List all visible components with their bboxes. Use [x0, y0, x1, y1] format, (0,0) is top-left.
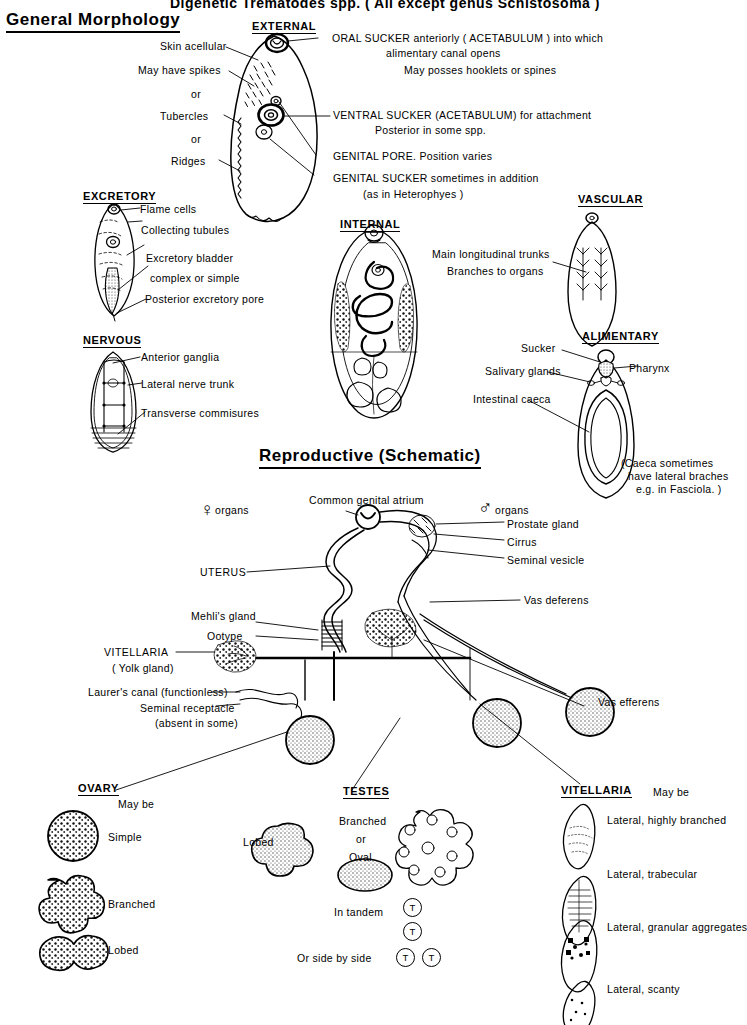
- label-tubercles: Tubercles: [160, 110, 208, 123]
- note-caeca-3: e.g. in Fasciola. ): [636, 483, 722, 496]
- label-may-have-spikes: May have spikes: [138, 64, 221, 77]
- section-header-excretory: EXCRETORY: [83, 190, 156, 204]
- internal-fluke: [331, 225, 417, 418]
- label-vitellaria-scanty: Lateral, scanty: [607, 983, 680, 996]
- label-seminal-receptacle: Seminal receptacle: [140, 702, 235, 715]
- label-branches-to-organs: Branches to organs: [447, 265, 543, 278]
- reproductive-schematic: [214, 505, 614, 764]
- testis-marker-side-1: T: [396, 948, 415, 967]
- label-hooklets-spines: May posses hooklets or spines: [404, 64, 556, 77]
- label-main-longitudinal-trunks: Main longitudinal trunks: [432, 248, 550, 261]
- label-collecting-tubules: Collecting tubules: [141, 224, 229, 237]
- label-intestinal-caeca: Intestinal caeca: [473, 393, 551, 406]
- label-vas-efferens: Vas efferens: [598, 696, 660, 709]
- label-salivary-glands: Salivary glands: [485, 365, 561, 378]
- label-vitellaria-highly-branched: Lateral, highly branched: [607, 814, 726, 827]
- label-vitellaria-trabecular: Lateral, trabecular: [607, 868, 697, 881]
- testis-marker-side-2: T: [422, 948, 441, 967]
- section-header-internal: INTERNAL: [340, 218, 400, 232]
- label-ovary-branched: Branched: [108, 898, 155, 911]
- section-header-alimentary: ALIMENTARY: [582, 330, 659, 344]
- section-header-ovary: OVARY: [78, 782, 119, 796]
- label-anterior-ganglia: Anterior ganglia: [141, 351, 219, 364]
- label-testes-lobed: Lobed: [243, 836, 274, 849]
- label-genital-sucker: GENITAL SUCKER sometimes in addition: [333, 172, 539, 185]
- label-mehlis-gland: Mehli's gland: [191, 610, 256, 623]
- label-absent-in-some: (absent in some): [155, 717, 238, 730]
- label-posterior-some-spp: Posterior in some spp.: [375, 124, 486, 137]
- page-title-general-morphology: General Morphology: [6, 10, 180, 33]
- label-vitellaria-may-be: May be: [653, 786, 689, 799]
- label-yolk-gland: ( Yolk gland): [112, 662, 174, 675]
- label-uterus: UTERUS: [200, 566, 246, 579]
- note-caeca-2: have lateral braches: [628, 470, 729, 483]
- label-pharynx: Pharynx: [629, 362, 670, 375]
- label-or-side-by-side: Or side by side: [297, 952, 372, 965]
- label-laurers-canal: Laurer's canal (functionless): [88, 686, 228, 699]
- alimentary-leader-lines: [528, 350, 638, 432]
- label-ridges: Ridges: [171, 155, 205, 168]
- testis-marker-tandem-1: T: [403, 898, 422, 917]
- label-common-genital-atrium: Common genital atrium: [309, 494, 424, 507]
- vitellaria-forms: [562, 804, 597, 1025]
- label-ovary-may-be: May be: [118, 798, 154, 811]
- label-complex-or-simple: complex or simple: [150, 272, 240, 285]
- label-ventral-sucker: VENTRAL SUCKER (ACETABULUM) for attachme…: [333, 109, 591, 122]
- section-header-nervous: NERVOUS: [83, 334, 141, 348]
- label-posterior-excretory-pore: Posterior excretory pore: [145, 293, 264, 306]
- label-in-tandem: In tandem: [334, 906, 383, 919]
- nervous-fluke: [91, 352, 136, 452]
- label-testes-oval: Oval: [349, 851, 372, 864]
- ovary-forms: [39, 811, 108, 970]
- label-vas-deferens: Vas deferens: [524, 594, 589, 607]
- reproductive-leader-lines: [116, 511, 584, 790]
- label-transverse-commisures: Transverse commisures: [141, 407, 259, 420]
- alimentary-fluke: [578, 350, 634, 498]
- label-ootype: Ootype: [207, 630, 243, 643]
- label-flame-cells: Flame cells: [140, 203, 196, 216]
- vitellaria-right-cluster: [365, 609, 416, 647]
- label-prostate-gland: Prostate gland: [507, 518, 579, 531]
- top-banner: Digenetic Trematodes spp. ( All except g…: [170, 0, 600, 11]
- vitellaria-left-cluster: [214, 641, 256, 672]
- label-sucker: Sucker: [521, 342, 555, 355]
- label-testes-or: or: [356, 833, 366, 846]
- label-lateral-nerve-trunk: Lateral nerve trunk: [141, 378, 234, 391]
- section-header-vitellaria: VITELLARIA: [561, 784, 632, 798]
- nervous-leader-lines: [113, 357, 145, 434]
- label-vitellaria-granular-aggregates: Lateral, granular aggregates: [607, 921, 747, 934]
- female-symbol: ♀: [200, 500, 215, 519]
- label-ovary-simple: Simple: [108, 831, 142, 844]
- label-skin-acellular: Skin acellular: [160, 40, 227, 53]
- male-symbol: ♂: [478, 498, 493, 517]
- label-testes-branched: Branched: [339, 815, 386, 828]
- vascular-fluke: [553, 213, 616, 346]
- section-header-testes: TESTES: [343, 785, 389, 799]
- male-organs-label: organs: [495, 504, 529, 517]
- label-or-2: or: [191, 133, 201, 146]
- section-header-vascular: VASCULAR: [578, 193, 643, 207]
- label-ovary-lobed: Lobed: [108, 944, 139, 957]
- female-organs-label: organs: [215, 504, 249, 517]
- testis-marker-tandem-2: T: [403, 922, 422, 941]
- label-oral-sucker: ORAL SUCKER anteriorly ( ACETABULUM ) in…: [332, 32, 603, 45]
- label-excretory-bladder: Excretory bladder: [146, 252, 233, 265]
- note-caeca-1: (Caeca sometimes: [621, 457, 713, 470]
- section-header-external: EXTERNAL: [252, 20, 316, 34]
- label-vitellaria-repro: VITELLARIA: [104, 646, 169, 659]
- external-fluke-body: [231, 34, 317, 222]
- label-seminal-vesicle: Seminal vesicle: [507, 554, 584, 567]
- label-cirrus: Cirrus: [507, 536, 537, 549]
- label-or-1: or: [191, 88, 201, 101]
- label-alimentary-canal-opens: alimentary canal opens: [386, 47, 501, 60]
- label-genital-pore: GENITAL PORE. Position varies: [333, 150, 492, 163]
- label-as-in-heterophyes: (as in Heterophyes ): [363, 188, 464, 201]
- page-title-reproductive: Reproductive (Schematic): [259, 446, 481, 469]
- external-leader-lines-left: [219, 47, 258, 171]
